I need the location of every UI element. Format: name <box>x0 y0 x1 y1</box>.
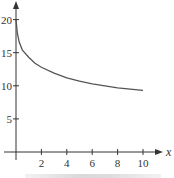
x-tick-label: 4 <box>64 157 70 169</box>
bottom-shadow-bar <box>25 174 161 178</box>
ticks <box>13 20 143 155</box>
tick-labels: 2468105101520 <box>1 14 149 169</box>
data-curve <box>16 20 143 91</box>
axes <box>4 1 163 160</box>
x-axis-arrow-icon <box>155 149 163 155</box>
y-tick-label: 5 <box>7 113 13 125</box>
x-tick-label: 10 <box>138 157 150 169</box>
x-tick-label: 6 <box>89 157 95 169</box>
y-axis-arrow-icon <box>13 1 19 9</box>
x-tick-label: 8 <box>115 157 121 169</box>
y-tick-label: 15 <box>1 47 13 59</box>
y-tick-label: 10 <box>1 80 13 92</box>
x-axis-label: x <box>165 145 172 159</box>
x-tick-label: 2 <box>39 157 45 169</box>
y-tick-label: 20 <box>1 14 13 26</box>
chart: 2468105101520 x <box>0 0 174 178</box>
